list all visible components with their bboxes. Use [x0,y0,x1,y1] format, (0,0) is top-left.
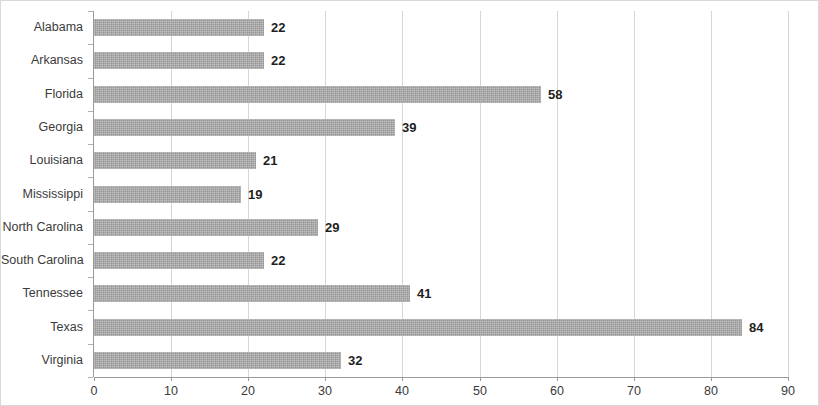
category-tick [88,111,93,112]
category-label: Alabama [1,20,83,34]
value-tick-mark [171,377,172,381]
category-label: Virginia [1,353,83,367]
bar-value-label: 29 [325,219,339,236]
value-tick-mark [711,377,712,381]
bar-row: 32 [94,352,788,369]
category-tick [88,310,93,311]
category-axis: AlabamaArkansasFloridaGeorgiaLouisianaMi… [1,1,94,377]
value-tick-label: 30 [305,384,345,398]
bar-row: 39 [94,119,788,136]
value-tick-mark [248,377,249,381]
bar-row: 41 [94,285,788,302]
bar-row: 22 [94,52,788,69]
value-tick-label: 70 [614,384,654,398]
plot-area: 2222583921192922418432 [94,11,788,377]
bar [94,219,318,236]
bar-row: 58 [94,86,788,103]
value-tick-label: 80 [691,384,731,398]
category-tick [88,11,93,12]
value-tick-label: 50 [460,384,500,398]
value-tick-mark [634,377,635,381]
value-tick-label: 40 [382,384,422,398]
bar [94,352,341,369]
value-tick-mark [325,377,326,381]
value-tick-label: 0 [74,384,114,398]
bar [94,52,264,69]
category-label: Louisiana [1,153,83,167]
gridline [788,11,789,377]
category-label: Florida [1,87,83,101]
bar-value-label: 21 [263,152,277,169]
bar-row: 22 [94,19,788,36]
bar-row: 29 [94,219,788,236]
value-tick-mark [557,377,558,381]
bar-row: 22 [94,252,788,269]
bar-value-label: 32 [348,352,362,369]
bar-row: 19 [94,186,788,203]
category-label: Texas [1,320,83,334]
bar [94,119,395,136]
value-axis: 0102030405060708090 [94,377,788,406]
category-tick [88,211,93,212]
value-tick-label: 10 [151,384,191,398]
category-tick [88,177,93,178]
bar [94,252,264,269]
bar [94,285,410,302]
category-tick [88,144,93,145]
value-axis-line [93,11,94,377]
bar-value-label: 22 [271,19,285,36]
category-tick [88,344,93,345]
bar-value-label: 39 [402,119,416,136]
bar [94,86,541,103]
bar-value-label: 58 [548,86,562,103]
bar-row: 21 [94,152,788,169]
category-tick [88,277,93,278]
category-label: Tennessee [1,286,83,300]
category-label: Arkansas [1,53,83,67]
category-tick [88,244,93,245]
category-label: Mississippi [1,187,83,201]
bar-value-label: 41 [417,285,431,302]
bar-value-label: 84 [749,319,763,336]
bar [94,186,241,203]
category-tick [88,377,93,378]
bar-row: 84 [94,319,788,336]
category-label: Georgia [1,120,83,134]
value-axis-baseline [94,377,788,378]
bar-value-label: 22 [271,252,285,269]
value-tick-label: 60 [537,384,577,398]
category-tick [88,78,93,79]
value-tick-mark [402,377,403,381]
bar [94,319,742,336]
value-tick-label: 20 [228,384,268,398]
value-tick-mark [480,377,481,381]
bar-value-label: 19 [248,186,262,203]
category-label: North Carolina [1,220,83,234]
value-tick-mark [788,377,789,381]
category-tick [88,44,93,45]
category-label: South Carolina [1,253,83,267]
bar [94,152,256,169]
value-tick-label: 90 [768,384,808,398]
bar-chart: AlabamaArkansasFloridaGeorgiaLouisianaMi… [0,0,819,406]
bar-value-label: 22 [271,52,285,69]
bar [94,19,264,36]
value-tick-mark [94,377,95,381]
